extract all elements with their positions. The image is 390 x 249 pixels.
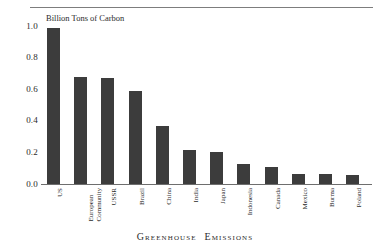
- bar-china: [156, 126, 169, 184]
- x-label-line: Canada: [275, 188, 283, 209]
- chart-caption: GreenhouseEmissions: [0, 231, 390, 242]
- bar-brazil: [129, 91, 142, 184]
- x-label-burma: Burma: [329, 188, 337, 207]
- caption-word: Greenhouse: [137, 231, 197, 242]
- x-label-line: Indonesia: [247, 188, 255, 215]
- x-label-line: China: [166, 188, 174, 205]
- bar-burma: [319, 174, 332, 184]
- x-label-line: Community: [96, 188, 104, 221]
- x-label-mexico: Mexico: [302, 188, 310, 209]
- bar-canada: [265, 167, 278, 184]
- y-axis-tick-0-2: 0.2: [10, 148, 38, 157]
- bar-japan: [210, 152, 223, 184]
- bar-indonesia: [237, 164, 250, 184]
- y-axis-tick-0-0: 0.0: [10, 180, 38, 189]
- caption-word: Emissions: [205, 231, 254, 242]
- x-label-line: Brazil: [139, 188, 147, 205]
- y-axis-tick-0-4: 0.4: [10, 116, 38, 125]
- x-label-brazil: Brazil: [139, 188, 147, 205]
- x-label-indonesia: Indonesia: [247, 188, 255, 215]
- x-label-india: India: [193, 188, 201, 202]
- bar-european-community: [74, 77, 87, 184]
- bar-chart-plot-area: Billion Tons of Carbon 1.00.80.60.40.20.…: [0, 0, 390, 249]
- x-label-line: USSR: [111, 188, 119, 206]
- x-label-european-community: EuropeanCommunity: [88, 188, 103, 221]
- x-label-ussr: USSR: [111, 188, 119, 206]
- y-axis-tick-0-8: 0.8: [10, 53, 38, 62]
- x-label-line: Japan: [220, 188, 228, 204]
- x-label-china: China: [166, 188, 174, 205]
- x-label-japan: Japan: [220, 188, 228, 204]
- x-label-line: Burma: [329, 188, 337, 207]
- bar-ussr: [101, 78, 114, 184]
- x-label-line: Poland: [356, 188, 364, 207]
- x-label-line: US: [57, 188, 65, 197]
- x-label-line: Mexico: [302, 188, 310, 209]
- bar-poland: [346, 175, 359, 184]
- x-label-canada: Canada: [275, 188, 283, 209]
- bar-india: [183, 150, 196, 184]
- bar-us: [47, 28, 60, 184]
- x-label-us: US: [57, 188, 65, 197]
- x-label-line: India: [193, 188, 201, 202]
- y-axis-tick-1-0: 1.0: [10, 22, 38, 31]
- greenhouse-emissions-figure: Billion Tons of Carbon 1.00.80.60.40.20.…: [0, 0, 390, 249]
- bar-mexico: [292, 174, 305, 184]
- y-axis-tick-0-6: 0.6: [10, 85, 38, 94]
- x-axis-line: [41, 184, 372, 185]
- x-label-poland: Poland: [356, 188, 364, 207]
- y-axis-title: Billion Tons of Carbon: [46, 13, 124, 23]
